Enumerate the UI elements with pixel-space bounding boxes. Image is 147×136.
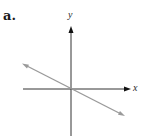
y-axis-arrow-icon [69, 26, 74, 33]
negative-slope-line [22, 64, 125, 117]
coordinate-graph [0, 0, 147, 136]
x-axis [23, 87, 131, 92]
line-arrow-right-icon [118, 111, 125, 116]
y-axis [69, 26, 74, 136]
line-arrow-left-icon [22, 64, 29, 69]
x-axis-arrow-icon [124, 87, 131, 92]
